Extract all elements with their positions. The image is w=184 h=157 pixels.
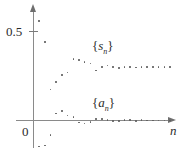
- data-point: [112, 120, 114, 122]
- data-point: [50, 134, 52, 136]
- y-tick-0.5: [29, 31, 38, 32]
- data-point: [50, 89, 52, 91]
- data-point: [107, 119, 109, 121]
- data-point: [67, 115, 69, 117]
- origin-label: 0: [22, 125, 29, 138]
- data-point: [129, 119, 131, 121]
- data-point: [118, 120, 120, 122]
- data-point: [55, 81, 57, 83]
- data-point: [61, 74, 63, 76]
- data-point: [146, 120, 148, 122]
- brace-close-an: }: [109, 95, 115, 110]
- data-point: [84, 123, 86, 125]
- series-label-sn: {sn}: [92, 39, 114, 56]
- data-point: [101, 118, 103, 120]
- data-point: [95, 70, 97, 72]
- data-point: [95, 118, 97, 120]
- data-point: [61, 110, 63, 112]
- y-tick-label-0.5: 0.5: [6, 25, 22, 38]
- data-point: [146, 66, 148, 68]
- data-point: [90, 63, 92, 65]
- arrow-up-icon: [30, 4, 36, 12]
- data-point: [158, 66, 160, 68]
- data-point: [73, 58, 75, 60]
- data-point: [164, 66, 166, 68]
- data-point: [101, 66, 103, 68]
- brace-close-sn: }: [107, 38, 113, 53]
- data-point: [84, 61, 86, 63]
- data-point: [152, 66, 154, 68]
- data-point: [152, 120, 154, 122]
- data-point: [129, 66, 131, 68]
- data-point: [112, 66, 114, 68]
- data-point: [44, 145, 46, 147]
- data-point: [38, 146, 40, 148]
- data-point: [73, 116, 75, 118]
- data-point: [90, 121, 92, 123]
- data-point: [67, 72, 69, 74]
- data-point: [169, 66, 171, 68]
- data-point: [78, 59, 80, 61]
- data-point: [38, 20, 40, 22]
- data-point: [135, 120, 137, 122]
- data-point: [118, 67, 120, 69]
- x-axis-label: n: [170, 124, 177, 137]
- data-point: [107, 65, 109, 67]
- data-point: [141, 66, 143, 68]
- series-label-an: {an}: [92, 96, 115, 113]
- data-point: [124, 66, 126, 68]
- sequence-scatter-figure: 0.5 0 n {sn} {an}: [0, 0, 184, 157]
- data-point: [78, 122, 80, 124]
- data-point: [44, 41, 46, 43]
- data-point: [55, 113, 57, 115]
- data-point: [164, 120, 166, 122]
- data-point: [135, 67, 137, 69]
